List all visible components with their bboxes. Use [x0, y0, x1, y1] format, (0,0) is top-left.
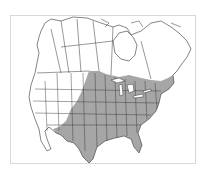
hudson-bay: [113, 31, 137, 61]
map-frame: [10, 15, 196, 164]
north-america-map: [11, 16, 196, 164]
